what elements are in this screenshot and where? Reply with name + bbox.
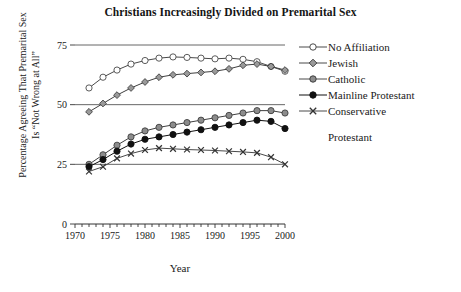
data-point xyxy=(170,54,176,60)
y-tick-label-25: 25 xyxy=(57,159,67,170)
legend-item-mainline-protestant: Mainline Protestant xyxy=(298,88,458,103)
data-point xyxy=(282,110,288,116)
x-tick-label-1970: 1970 xyxy=(65,230,85,241)
data-point xyxy=(198,69,205,76)
legend-label-catholic: Catholic xyxy=(328,72,365,86)
data-point xyxy=(226,65,233,72)
x-tick-label-2000: 2000 xyxy=(275,230,295,241)
x-tick-label-1975: 1975 xyxy=(100,230,120,241)
legend-label-conservative-protestant-line2: Protestant xyxy=(328,130,372,144)
x-tick-label-1995: 1995 xyxy=(240,230,260,241)
data-point xyxy=(114,92,121,99)
x-tick-label-1980: 1980 xyxy=(135,230,155,241)
data-point xyxy=(184,54,190,60)
data-point xyxy=(184,70,191,77)
legend-item-catholic: Catholic xyxy=(298,72,458,87)
y-tick-label-0: 0 xyxy=(62,219,67,230)
x-axis-label: Year xyxy=(75,262,285,274)
data-point xyxy=(198,127,204,133)
data-point xyxy=(170,71,177,78)
data-point xyxy=(198,117,204,123)
data-point xyxy=(128,61,134,67)
legend-marker-x-cross-icon xyxy=(298,104,328,118)
data-point xyxy=(240,119,246,125)
data-point xyxy=(86,85,92,91)
data-point xyxy=(226,122,232,128)
data-point xyxy=(156,74,163,81)
legend-marker-gray-circle-icon xyxy=(298,72,328,86)
legend-item-jewish: Jewish xyxy=(298,56,458,71)
data-point xyxy=(142,79,149,86)
data-point xyxy=(100,100,107,107)
data-point xyxy=(114,142,120,148)
data-point xyxy=(142,57,148,63)
data-point xyxy=(184,129,190,135)
legend-marker-open-circle-icon xyxy=(298,40,328,54)
data-point xyxy=(86,108,93,115)
y-tick-label-75: 75 xyxy=(57,40,67,51)
legend-label-no-affiliation: No Affiliation xyxy=(328,40,390,54)
data-point xyxy=(156,124,162,130)
data-point xyxy=(100,156,106,162)
legend-label-conservative-protestant: Conservative xyxy=(328,104,386,118)
data-point xyxy=(240,110,246,116)
data-point xyxy=(142,136,148,142)
data-point xyxy=(254,108,260,114)
legend-item-conservative-protestant: Conservative xyxy=(298,104,458,119)
data-point xyxy=(212,115,218,121)
data-point xyxy=(198,55,204,61)
data-point xyxy=(142,128,148,134)
data-point xyxy=(212,56,218,62)
data-point xyxy=(170,131,176,137)
data-point xyxy=(100,74,106,80)
data-point xyxy=(212,124,218,130)
data-point xyxy=(184,119,190,125)
data-point xyxy=(254,117,260,123)
legend-label-jewish: Jewish xyxy=(328,56,358,70)
y-axis-label-line2: Is “Not Wrong at All” xyxy=(30,0,43,190)
data-point xyxy=(282,125,288,131)
x-tick-label-1985: 1985 xyxy=(170,230,190,241)
data-point xyxy=(212,68,219,75)
y-axis-label: Percentage Agreeing That Premarital Sex … xyxy=(17,0,47,190)
legend-marker-filled-circle-icon xyxy=(298,88,328,102)
data-point xyxy=(226,55,232,61)
data-point xyxy=(114,67,120,73)
data-point xyxy=(240,62,247,69)
y-axis-label-line1: Percentage Agreeing That Premarital Sex xyxy=(17,0,30,190)
chart-legend: No Affiliation Jewish Catholic Mainline … xyxy=(298,40,458,120)
x-tick-label-1990: 1990 xyxy=(205,230,225,241)
data-point xyxy=(128,85,135,92)
data-point xyxy=(226,112,232,118)
data-point xyxy=(170,122,176,128)
legend-item-no-affiliation: No Affiliation xyxy=(298,40,458,55)
legend-label-mainline-protestant: Mainline Protestant xyxy=(328,88,414,102)
data-point xyxy=(114,148,120,154)
data-point xyxy=(156,55,162,61)
y-tick-label-50: 50 xyxy=(57,99,67,110)
data-point xyxy=(128,141,134,147)
data-point xyxy=(156,134,162,140)
data-point xyxy=(268,118,274,124)
legend-marker-diamond-icon xyxy=(298,56,328,70)
data-point xyxy=(268,108,274,114)
chart-figure: Christians Increasingly Divided on Prema… xyxy=(0,0,461,292)
data-point xyxy=(128,134,134,140)
